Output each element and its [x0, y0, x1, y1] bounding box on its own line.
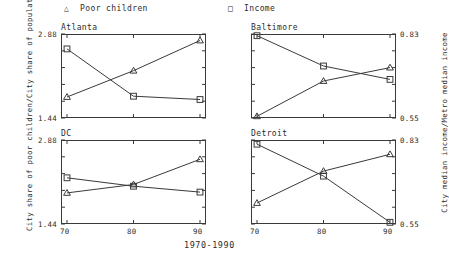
- legend: △Poor children □Income: [0, 4, 448, 18]
- y-tick-right-top-detroit: 0.83: [400, 136, 419, 145]
- triangle-marker-icon: △: [64, 4, 76, 13]
- x-tick-80-dc: 80: [127, 227, 137, 236]
- panel-title-dc: DC: [61, 129, 71, 138]
- x-axis-title: 1970-1990: [184, 240, 235, 250]
- panel-title-detroit: Detroit: [251, 129, 288, 138]
- y-tick-left-bottom-dc: 1.44: [25, 220, 57, 229]
- panel-title-baltimore: Baltimore: [251, 23, 298, 32]
- x-tick-90-dc: 90: [193, 227, 203, 236]
- x-tick-70-detroit: 70: [250, 227, 260, 236]
- x-tick-80-detroit: 80: [317, 227, 327, 236]
- x-tick-70-dc: 70: [60, 227, 70, 236]
- legend-label-poor-children: Poor children: [80, 4, 148, 13]
- panel-title-atlanta: Atlanta: [61, 23, 98, 32]
- y-tick-right-top-baltimore: 0.83: [400, 30, 419, 39]
- y-tick-right-bottom-baltimore: 0.55: [400, 114, 419, 123]
- plot-area-detroit: [251, 140, 396, 224]
- right-axis-title: City median income/Metro median income: [440, 0, 449, 248]
- y-tick-left-bottom-atlanta: 1.44: [25, 114, 57, 123]
- legend-label-income: Income: [244, 4, 275, 13]
- legend-item-income: □Income: [228, 4, 275, 13]
- plot-area-baltimore: [251, 34, 396, 118]
- y-tick-left-top-atlanta: 2.88: [25, 30, 57, 39]
- plot-area-atlanta: [61, 34, 206, 118]
- legend-item-poor-children: △Poor children: [64, 4, 148, 13]
- y-tick-left-top-dc: 2.88: [25, 136, 57, 145]
- x-tick-90-detroit: 90: [383, 227, 393, 236]
- plot-area-dc: [61, 140, 206, 224]
- y-tick-right-bottom-detroit: 0.55: [400, 220, 419, 229]
- square-marker-icon: □: [228, 4, 240, 13]
